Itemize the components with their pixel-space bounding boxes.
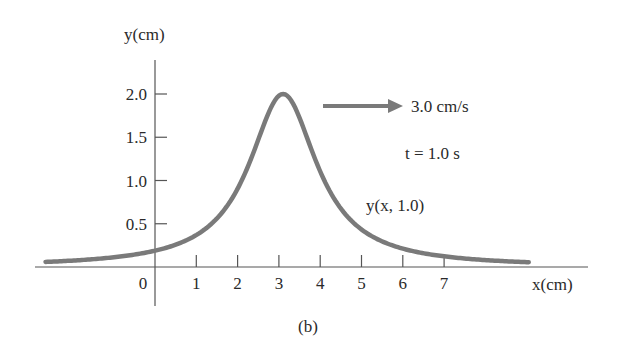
wave-pulse-chart: 0.51.01.52.0 01234567 y(cm) x(cm) 3.0 cm…: [0, 0, 618, 358]
y-tick-label: 1.0: [126, 172, 147, 191]
x-tick-label: 3: [275, 274, 284, 293]
x-tick-label: 6: [399, 274, 408, 293]
figure-caption: (b): [298, 317, 318, 336]
velocity-arrow-icon: [323, 99, 403, 113]
y-ticks: 0.51.01.52.0: [126, 85, 167, 234]
y-tick-label: 1.5: [126, 128, 147, 147]
x-ticks: 01234567: [139, 255, 449, 293]
y-axis-label: y(cm): [124, 25, 165, 44]
y-tick-label: 2.0: [126, 85, 147, 104]
y-tick-label: 0.5: [126, 215, 147, 234]
curve-label: y(x, 1.0): [366, 196, 424, 215]
x-tick-label: 0: [139, 274, 148, 293]
wave-curve: [46, 94, 529, 262]
x-tick-label: 7: [440, 274, 449, 293]
x-tick-label: 2: [233, 274, 242, 293]
x-tick-label: 1: [192, 274, 201, 293]
x-axis-label: x(cm): [532, 275, 573, 294]
time-label: t = 1.0 s: [405, 144, 460, 163]
x-tick-label: 4: [316, 274, 325, 293]
x-tick-label: 5: [357, 274, 366, 293]
speed-label: 3.0 cm/s: [411, 97, 469, 116]
